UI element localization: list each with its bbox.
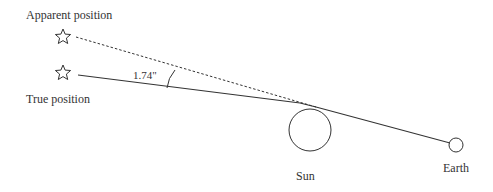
deflection-angle-label: 1.74" <box>133 69 157 81</box>
light-deflection-diagram: Apparent position 1.74" True position Su… <box>0 0 493 192</box>
earth-circle <box>449 138 463 152</box>
true-position-label: True position <box>26 92 90 106</box>
true-light-path <box>78 75 450 143</box>
apparent-star-icon <box>55 29 70 44</box>
apparent-light-path <box>76 37 316 107</box>
true-star-icon <box>55 65 70 80</box>
deflection-angle-arc <box>167 70 175 88</box>
sun-circle <box>289 109 331 151</box>
apparent-position-label: Apparent position <box>26 8 112 22</box>
earth-label: Earth <box>443 161 469 175</box>
sun-label: Sun <box>296 169 315 183</box>
